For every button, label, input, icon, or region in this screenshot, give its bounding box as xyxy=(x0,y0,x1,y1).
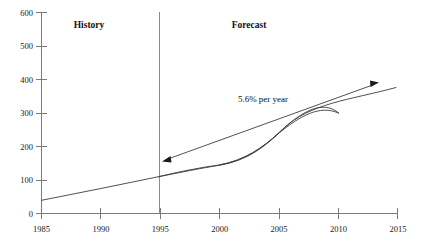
x-tick-label-2005: 2005 xyxy=(271,224,288,234)
x-tick-label-1990: 1990 xyxy=(92,224,109,234)
y-tick-label-600: 600 xyxy=(20,8,33,18)
y-tick-label-400: 400 xyxy=(20,75,33,85)
y-tick-label-500: 500 xyxy=(20,41,33,51)
x-tick-label-1985: 1985 xyxy=(33,224,50,234)
x-tick-label-2000: 2000 xyxy=(211,224,228,234)
arrow-head-right-icon xyxy=(370,81,379,88)
forecast-region-label: Forecast xyxy=(232,20,267,30)
data-series-history xyxy=(42,177,160,201)
data-series-forecast xyxy=(159,110,339,176)
growth-rate-annotation: 5.6% per year xyxy=(162,81,379,163)
growth-rate-label: 5.6% per year xyxy=(238,94,288,104)
y-axis-tick-labels: 600 500 400 300 200 100 0 xyxy=(20,8,33,219)
y-tick-label-100: 100 xyxy=(20,175,33,185)
x-axis-tick-labels: 1985 1990 1995 2000 2005 2010 2015 xyxy=(33,224,406,234)
x-tick-label-2010: 2010 xyxy=(330,224,347,234)
x-tick-label-1995: 1995 xyxy=(152,224,169,234)
line-chart: 600 500 400 300 200 100 0 1985 1990 1995… xyxy=(0,0,421,248)
history-region-label: History xyxy=(74,20,105,30)
data-series-forecast-tail xyxy=(220,107,339,165)
y-tick-label-0: 0 xyxy=(29,209,33,219)
chart-container: 600 500 400 300 200 100 0 1985 1990 1995… xyxy=(0,0,421,248)
y-tick-label-200: 200 xyxy=(20,142,33,152)
y-tick-label-300: 300 xyxy=(20,108,33,118)
x-tick-label-2015: 2015 xyxy=(389,224,406,234)
chart-axes xyxy=(42,12,399,214)
arrow-head-left-icon xyxy=(162,156,172,163)
